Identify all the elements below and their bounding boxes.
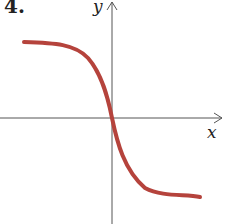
graph (0, 0, 230, 224)
